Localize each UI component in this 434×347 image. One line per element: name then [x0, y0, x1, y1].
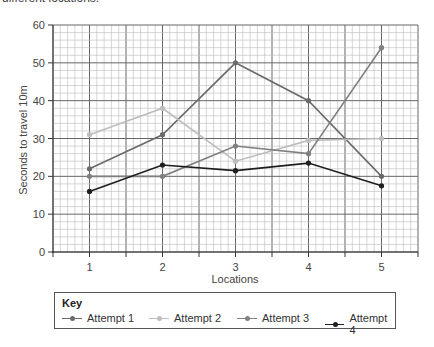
line-marker-icon: [325, 320, 344, 329]
data-point-marker: [379, 183, 384, 188]
data-point-marker: [87, 174, 92, 179]
data-point-marker: [379, 45, 384, 50]
data-point-marker: [87, 166, 92, 171]
y-tick-label: 40: [33, 95, 45, 107]
data-point-marker: [160, 162, 165, 167]
line-marker-icon: [62, 314, 82, 323]
legend-title: Key: [62, 297, 82, 309]
legend-item-attempt-3: Attempt 3: [237, 312, 309, 324]
data-point-marker: [160, 174, 165, 179]
data-point-marker: [306, 151, 311, 156]
x-tick-label: 4: [305, 261, 311, 273]
y-tick-label: 30: [33, 133, 45, 145]
line-marker-icon: [149, 314, 169, 323]
y-tick-label: 60: [33, 19, 45, 31]
legend-label: Attempt 1: [87, 312, 134, 324]
y-tick-label: 20: [33, 170, 45, 182]
legend-item-attempt-4: Attempt 4: [325, 312, 395, 336]
data-point-marker: [379, 136, 384, 141]
legend-label: Attempt 4: [349, 312, 395, 336]
legend-key: Key Attempt 1 Attempt 2 Attempt 3 Attemp…: [54, 292, 396, 329]
data-point-marker: [87, 132, 92, 137]
line-chart: 010203040506012345 Seconds to travel 10m…: [0, 0, 434, 290]
legend-label: Attempt 3: [262, 312, 309, 324]
x-tick-label: 5: [378, 261, 384, 273]
x-tick-label: 3: [232, 261, 238, 273]
data-point-marker: [379, 174, 384, 179]
data-point-marker: [233, 143, 238, 148]
legend-item-attempt-2: Attempt 2: [149, 312, 221, 324]
legend-item-attempt-1: Attempt 1: [62, 312, 134, 324]
x-tick-label: 1: [86, 261, 92, 273]
x-axis-label: Locations: [211, 273, 259, 285]
data-point-marker: [233, 60, 238, 65]
data-point-marker: [306, 98, 311, 103]
y-axis-label: Seconds to travel 10m: [17, 85, 29, 194]
line-marker-icon: [237, 314, 257, 323]
data-point-marker: [233, 168, 238, 173]
y-tick-label: 50: [33, 57, 45, 69]
y-tick-label: 10: [33, 208, 45, 220]
data-point-marker: [306, 138, 311, 143]
x-tick-label: 2: [159, 261, 165, 273]
data-point-marker: [160, 106, 165, 111]
legend-label: Attempt 2: [174, 312, 221, 324]
y-tick-label: 0: [39, 246, 45, 258]
data-point-marker: [160, 132, 165, 137]
data-point-marker: [87, 189, 92, 194]
data-point-marker: [306, 160, 311, 165]
data-point-marker: [233, 159, 238, 164]
